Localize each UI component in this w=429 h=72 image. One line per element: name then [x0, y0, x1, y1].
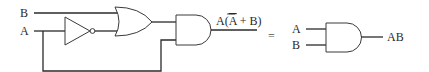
output-expression: A(A + B)	[216, 14, 261, 28]
right-input-b-label: B	[292, 38, 300, 52]
not-gate	[65, 17, 90, 45]
input-a-label: A	[20, 24, 29, 38]
input-b-label: B	[20, 6, 28, 20]
or-gate	[115, 7, 152, 36]
right-and-gate	[326, 23, 362, 52]
wire-a-feedback	[43, 31, 178, 71]
right-output-label: AB	[387, 30, 404, 44]
right-input-a-label: A	[292, 22, 301, 36]
and-gate	[176, 15, 211, 45]
not-gate-bubble	[90, 29, 95, 34]
equals-sign: =	[268, 29, 275, 43]
logic-equivalence-diagram: B A A(A + B) = A B AB	[0, 0, 429, 72]
left-circuit: B A A(A + B)	[20, 6, 261, 71]
right-circuit: A B AB	[292, 22, 404, 52]
